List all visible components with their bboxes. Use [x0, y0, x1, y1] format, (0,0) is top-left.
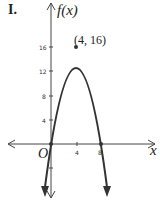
chart-canvas: [0, 0, 160, 203]
vertex-point: [74, 45, 78, 49]
root-point-8: [99, 142, 103, 146]
curve-arrow-right: [103, 186, 111, 197]
x-axis: [8, 140, 155, 148]
root-point-origin: [49, 142, 53, 146]
parabola-curve: [45, 68, 107, 187]
